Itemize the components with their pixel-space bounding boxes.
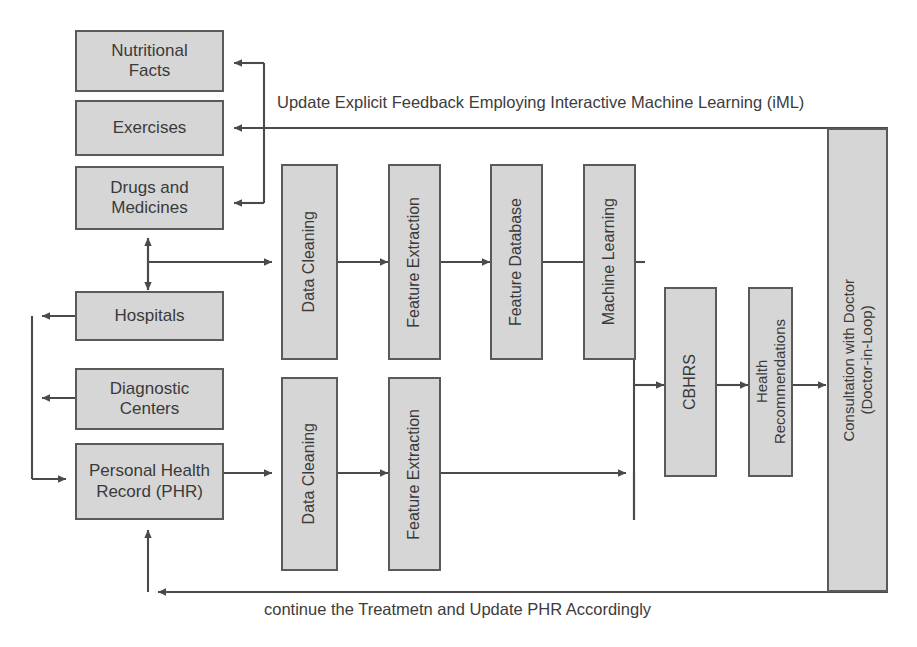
node-diagnostic-centers[interactable]: Diagnostic Centers: [75, 368, 224, 430]
node-consultation-with-doctor[interactable]: Consultation with Doctor (Doctor-in-Loop…: [827, 128, 888, 592]
node-label: Exercises: [110, 118, 190, 138]
node-label: Feature Extraction: [402, 409, 427, 540]
node-nutritional-facts[interactable]: Nutritional Facts: [75, 30, 224, 92]
node-data-cleaning-bottom[interactable]: Data Cleaning: [281, 377, 338, 571]
node-exercises[interactable]: Exercises: [75, 100, 224, 156]
node-label: Feature Database: [504, 198, 529, 326]
edge-label-bottom-feedback: continue the Treatmetn and Update PHR Ac…: [264, 600, 651, 619]
node-personal-health-record[interactable]: Personal Health Record (PHR): [75, 443, 224, 520]
node-label: Data Cleaning: [297, 423, 322, 524]
node-label: Feature Extraction: [402, 197, 427, 328]
node-label: Nutritional Facts: [108, 41, 191, 81]
node-label: Health Recommendations: [750, 319, 791, 444]
node-data-cleaning-top[interactable]: Data Cleaning: [281, 164, 338, 360]
node-label: Consultation with Doctor (Doctor-in-Loop…: [837, 279, 878, 442]
node-label: CBHRS: [678, 354, 703, 410]
node-feature-extraction-top[interactable]: Feature Extraction: [388, 164, 441, 360]
node-label: Machine Learning: [597, 198, 622, 325]
node-machine-learning[interactable]: Machine Learning: [583, 164, 636, 360]
node-health-recommendations[interactable]: Health Recommendations: [748, 287, 793, 477]
node-label: Hospitals: [112, 306, 188, 326]
node-feature-extraction-bottom[interactable]: Feature Extraction: [388, 377, 441, 571]
node-label: Data Cleaning: [297, 211, 322, 312]
diagram-canvas: Nutritional Facts Exercises Drugs and Me…: [0, 0, 917, 647]
node-feature-database[interactable]: Feature Database: [490, 164, 543, 360]
node-hospitals[interactable]: Hospitals: [75, 291, 224, 341]
node-drugs-and-medicines[interactable]: Drugs and Medicines: [75, 166, 224, 230]
node-label: Personal Health Record (PHR): [86, 461, 213, 501]
node-label: Drugs and Medicines: [107, 178, 191, 218]
edge-label-iml-feedback: Update Explicit Feedback Employing Inter…: [277, 93, 804, 112]
node-cbhrs[interactable]: CBHRS: [664, 287, 717, 477]
node-label: Diagnostic Centers: [107, 379, 192, 419]
